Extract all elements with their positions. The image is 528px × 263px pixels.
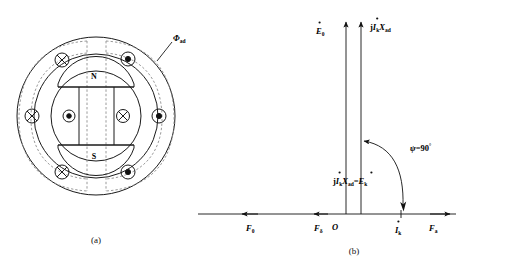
flux-path-group [19, 41, 174, 191]
conductor-cross-left [25, 109, 39, 123]
label-Fdelta-sub: δ [320, 228, 323, 234]
label-Ik-sub: k [398, 230, 402, 236]
conductor-cross-lower-left [55, 165, 69, 179]
conductor-dot-rotor-left [63, 110, 75, 122]
label-E0: E0 [315, 26, 325, 37]
label-Ik-dot-accent [397, 220, 399, 222]
figure-root: N S [0, 0, 528, 263]
flux-label: Φad [173, 33, 186, 44]
label-E0-dot-accent [319, 21, 321, 23]
south-pole-label: S [92, 152, 97, 161]
label-Ik: Ik [394, 225, 402, 236]
label-jIkXad: jIkXad [369, 22, 391, 33]
label-psi-value: 90 [421, 143, 430, 153]
panel-a-caption: (a) [91, 235, 101, 245]
inner-eq-E-dot-accent [370, 171, 372, 173]
label-F0-sub: 0 [252, 228, 255, 234]
label-Fa-sub: a [435, 228, 438, 234]
label-psi-angle: ψ=90° [410, 143, 431, 153]
angle-arc-psi [364, 141, 403, 206]
conductor-dot-right [152, 109, 166, 123]
label-psi-unit: ° [429, 143, 431, 149]
flux-label-sub: ad [180, 38, 186, 44]
label-inner-equation: jIkXad=Ek [332, 176, 368, 187]
origin-label: O [332, 222, 338, 232]
label-E0-sub: 0 [322, 31, 325, 37]
inner-eq-E-sub: k [364, 181, 368, 187]
inner-eq-I-dot-accent [339, 171, 341, 173]
north-pole-label: N [91, 72, 97, 81]
label-Fa: Fa [428, 223, 438, 234]
rotor-circle [51, 71, 141, 161]
label-jIkXad-X-sub: ad [385, 27, 391, 33]
flux-loop-left-outer [19, 41, 87, 191]
label-jIkXad-dot-accent [376, 17, 378, 19]
label-F0: F0 [245, 223, 255, 234]
stator-outer-circle [17, 37, 175, 195]
panel-b-caption: (b) [349, 246, 360, 256]
flux-leader-line [157, 42, 172, 61]
panel-b-phasor-diagram: O E0 jIkXad jIkXad=Ek ψ=90° F0 Fδ [198, 0, 528, 263]
label-Fdelta: Fδ [313, 223, 323, 234]
conductor-cross-rotor-right [117, 110, 130, 123]
conductor-dot-upper-right [121, 52, 135, 66]
conductor-cross-upper-left [55, 53, 69, 67]
